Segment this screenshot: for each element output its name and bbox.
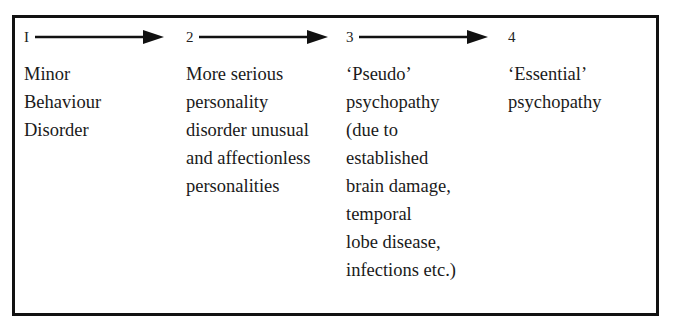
- label-line: Behaviour: [24, 88, 101, 116]
- label-line: ‘Essential’: [508, 60, 602, 88]
- label-line: Disorder: [24, 116, 101, 144]
- label-line: personalities: [186, 172, 311, 200]
- stage-label: ‘Pseudo’ psychopathy (due to established…: [346, 60, 456, 284]
- label-line: psychopathy: [508, 88, 602, 116]
- label-line: personality: [186, 88, 311, 116]
- label-line: More serious: [186, 60, 311, 88]
- label-line: brain damage,: [346, 172, 456, 200]
- stage-number: 2: [186, 29, 194, 45]
- right-arrow-icon: [35, 30, 165, 44]
- stage-number: I: [24, 29, 29, 45]
- label-line: infections etc.): [346, 256, 456, 284]
- stage-label: ‘Essential’ psychopathy: [508, 60, 602, 116]
- label-line: psychopathy: [346, 88, 456, 116]
- label-line: temporal: [346, 200, 456, 228]
- label-line: Minor: [24, 60, 101, 88]
- label-line: ‘Pseudo’: [346, 60, 456, 88]
- label-line: established: [346, 144, 456, 172]
- label-line: (due to: [346, 116, 456, 144]
- stage-label: Minor Behaviour Disorder: [24, 60, 101, 144]
- right-arrow-icon: [359, 30, 489, 44]
- stage-label: More serious personality disorder unusua…: [186, 60, 311, 200]
- label-line: lobe disease,: [346, 228, 456, 256]
- stage-number: 4: [508, 29, 516, 45]
- label-line: disorder unusual: [186, 116, 311, 144]
- right-arrow-icon: [199, 30, 329, 44]
- stage-number: 3: [346, 29, 354, 45]
- label-line: and affectionless: [186, 144, 311, 172]
